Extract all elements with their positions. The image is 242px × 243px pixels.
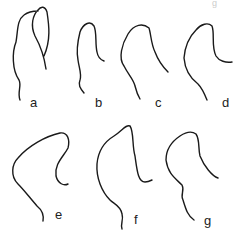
label-b: b [95, 96, 102, 109]
label-e: e [55, 208, 62, 221]
label-g: g [204, 214, 211, 227]
label-c: c [155, 96, 162, 109]
outline-a [13, 7, 49, 100]
outline-g [166, 132, 218, 220]
label-d: d [222, 96, 229, 109]
outline-f [97, 126, 152, 229]
outline-b [77, 23, 104, 93]
outline-d [184, 24, 232, 100]
ear-outline-diagram [0, 0, 242, 243]
label-a: a [30, 96, 37, 109]
label-f: f [134, 213, 138, 226]
outline-c [121, 25, 168, 99]
